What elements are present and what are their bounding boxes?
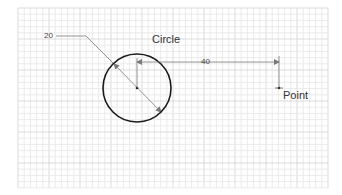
circle-label: Circle xyxy=(152,34,180,45)
diameter-dimension-value[interactable]: 20 xyxy=(44,32,53,40)
distance-dimension-value[interactable]: 40 xyxy=(201,58,210,66)
point-label: Point xyxy=(283,90,308,101)
